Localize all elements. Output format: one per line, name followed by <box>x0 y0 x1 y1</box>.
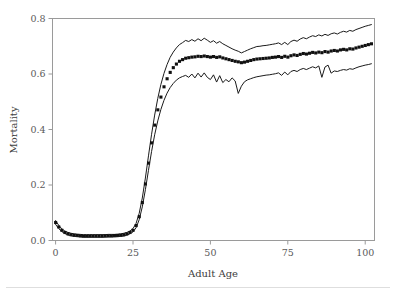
data-point <box>255 58 258 61</box>
data-point <box>354 46 357 49</box>
data-point <box>311 51 314 54</box>
data-point <box>178 60 181 63</box>
x-axis-title: Adult Age <box>187 268 238 279</box>
data-point <box>234 60 237 63</box>
x-tick-label: 50 <box>204 247 216 258</box>
data-point <box>320 51 323 54</box>
data-point <box>293 53 296 56</box>
data-point <box>159 96 162 99</box>
data-point <box>336 49 339 52</box>
data-point <box>193 55 196 58</box>
data-point <box>227 58 230 61</box>
data-point <box>314 51 317 54</box>
x-tick-label: 75 <box>282 247 294 258</box>
y-tick-label: 0.4 <box>30 124 45 135</box>
data-point <box>169 71 172 74</box>
data-point <box>289 54 292 57</box>
data-point <box>54 221 57 224</box>
data-point <box>203 54 206 57</box>
data-point <box>361 45 364 48</box>
data-point <box>323 50 326 53</box>
data-point <box>221 56 224 59</box>
data-point <box>345 48 348 51</box>
data-point <box>187 56 190 59</box>
data-point <box>240 61 243 64</box>
data-point <box>249 59 252 62</box>
data-point <box>184 57 187 60</box>
data-point <box>333 49 336 52</box>
data-point <box>299 53 302 56</box>
data-point <box>156 108 159 111</box>
data-point <box>206 55 209 58</box>
data-point <box>367 43 370 46</box>
x-tick-label: 0 <box>53 247 59 258</box>
data-point <box>252 58 255 61</box>
data-point <box>218 55 221 58</box>
data-point <box>209 56 212 59</box>
data-point <box>280 56 283 59</box>
data-point <box>277 55 280 58</box>
data-point <box>302 52 305 55</box>
y-tick-label: 0.0 <box>30 235 45 246</box>
data-point <box>190 56 193 59</box>
mortality-vs-adult-age-chart: 0.00.20.40.60.8 0255075100 Mortality Adu… <box>0 0 396 291</box>
data-point <box>268 56 271 59</box>
data-point <box>342 48 345 51</box>
data-point <box>200 55 203 58</box>
data-point <box>237 60 240 63</box>
data-point <box>215 56 218 59</box>
chart-background <box>0 0 396 291</box>
y-tick-label: 0.6 <box>30 68 45 79</box>
data-point <box>274 56 277 59</box>
data-point <box>181 58 184 61</box>
data-point <box>317 51 320 54</box>
data-point <box>308 52 311 55</box>
y-axis-title: Mortality <box>8 106 19 153</box>
chart-figure: 0.00.20.40.60.8 0255075100 Mortality Adu… <box>0 0 396 291</box>
y-tick-label: 0.2 <box>30 179 45 190</box>
data-point <box>224 57 227 60</box>
data-point <box>286 56 289 59</box>
data-point <box>271 56 274 59</box>
data-point <box>175 63 178 66</box>
data-point <box>351 48 354 51</box>
data-point <box>166 77 169 80</box>
data-point <box>330 49 333 52</box>
data-point <box>243 61 246 64</box>
data-point <box>265 57 268 60</box>
data-point <box>348 47 351 50</box>
data-point <box>153 124 156 127</box>
data-point <box>197 55 200 58</box>
data-point <box>231 59 234 62</box>
data-point <box>283 55 286 58</box>
x-tick-label: 25 <box>127 247 139 258</box>
data-point <box>262 57 265 60</box>
data-point <box>172 66 175 69</box>
data-point <box>305 53 308 56</box>
data-point <box>370 42 373 45</box>
data-point <box>212 55 215 58</box>
data-point <box>296 54 299 57</box>
data-point <box>364 44 367 47</box>
x-tick-label: 100 <box>356 247 374 258</box>
data-point <box>358 46 361 49</box>
data-point <box>339 48 342 51</box>
y-tick-label: 0.8 <box>30 13 45 24</box>
data-point <box>258 57 261 60</box>
data-point <box>327 51 330 54</box>
data-point <box>246 60 249 63</box>
data-point <box>162 85 165 88</box>
